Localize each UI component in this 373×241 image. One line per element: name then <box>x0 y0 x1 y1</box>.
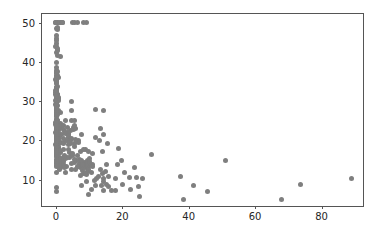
x-tick-label: 40 <box>182 211 195 222</box>
y-tick-mark <box>39 62 42 63</box>
plot-axes: 020406080 1020304050 <box>41 13 364 207</box>
scatter-point <box>54 130 59 135</box>
scatter-point <box>54 170 59 175</box>
scatter-point <box>119 158 124 163</box>
scatter-point <box>128 187 133 192</box>
scatter-point <box>54 36 59 41</box>
scatter-point <box>55 46 60 51</box>
scatter-point <box>205 189 210 194</box>
scatter-point <box>78 173 83 178</box>
scatter-point <box>100 149 105 154</box>
scatter-point <box>70 151 75 156</box>
scatter-point <box>54 106 59 111</box>
scatter-point <box>54 189 59 194</box>
scatter-point <box>79 132 84 137</box>
scatter-point <box>75 20 80 25</box>
scatter-point <box>132 165 137 170</box>
scatter-point <box>69 167 74 172</box>
x-tick-label: 20 <box>116 211 129 222</box>
y-tick-label: 20 <box>22 135 35 146</box>
scatter-point <box>69 108 74 113</box>
scatter-point <box>104 162 109 167</box>
scatter-point <box>178 174 183 179</box>
scatter-point <box>54 75 59 80</box>
scatter-point <box>115 162 120 167</box>
scatter-point <box>79 183 84 188</box>
scatter-point <box>54 123 59 128</box>
x-tick-mark <box>122 206 123 209</box>
figure-canvas: 020406080 1020304050 <box>0 0 373 241</box>
x-tick-mark <box>322 206 323 209</box>
scatter-point <box>54 163 59 168</box>
scatter-point <box>113 176 118 181</box>
scatter-point <box>181 197 186 202</box>
scatter-point <box>54 112 59 117</box>
x-tick-label: 60 <box>249 211 262 222</box>
scatter-point <box>191 183 196 188</box>
scatter-point <box>101 132 106 137</box>
y-tick-label: 50 <box>22 17 35 28</box>
scatter-point <box>93 183 98 188</box>
scatter-point <box>54 60 59 65</box>
scatter-point <box>75 164 80 169</box>
x-tick-label: 80 <box>315 211 328 222</box>
scatter-point <box>90 164 95 169</box>
scatter-point <box>93 107 98 112</box>
x-tick-label: 0 <box>53 211 59 222</box>
scatter-point <box>105 141 110 146</box>
scatter-point <box>140 176 145 181</box>
x-tick-mark <box>56 206 57 209</box>
scatter-point <box>120 182 125 187</box>
scatter-point <box>69 161 74 166</box>
scatter-point <box>96 174 101 179</box>
scatter-point <box>81 20 86 25</box>
scatter-point <box>97 138 102 143</box>
scatter-point <box>134 175 139 180</box>
scatter-point <box>54 157 59 162</box>
y-tick-label: 30 <box>22 96 35 107</box>
scatter-point <box>60 20 65 25</box>
scatter-point <box>55 25 60 30</box>
scatter-point <box>116 146 121 151</box>
y-tick-mark <box>39 140 42 141</box>
scatter-point <box>54 136 59 141</box>
y-tick-mark <box>39 180 42 181</box>
x-tick-mark <box>255 206 256 209</box>
scatter-point <box>101 188 106 193</box>
scatter-point <box>72 118 77 123</box>
scatter-point <box>101 108 106 113</box>
scatter-point <box>84 179 89 184</box>
scatter-point <box>81 147 86 152</box>
scatter-point <box>223 158 228 163</box>
scatter-point <box>349 176 354 181</box>
scatter-point <box>136 184 141 189</box>
scatter-point <box>279 197 284 202</box>
x-tick-mark <box>189 206 190 209</box>
scatter-point <box>69 99 74 104</box>
scatter-point <box>86 192 91 197</box>
scatter-point <box>98 126 103 131</box>
scatter-plot-area <box>42 14 363 206</box>
scatter-point <box>63 170 68 175</box>
scatter-point <box>106 174 111 179</box>
scatter-point <box>137 194 142 199</box>
scatter-point <box>298 182 303 187</box>
y-tick-mark <box>39 23 42 24</box>
scatter-point <box>62 165 67 170</box>
y-tick-mark <box>39 101 42 102</box>
scatter-point <box>113 188 118 193</box>
scatter-point <box>122 170 127 175</box>
scatter-point <box>90 151 95 156</box>
scatter-point <box>127 175 132 180</box>
y-tick-label: 10 <box>22 174 35 185</box>
scatter-point <box>149 152 154 157</box>
scatter-point <box>54 185 59 190</box>
y-tick-label: 40 <box>22 56 35 67</box>
